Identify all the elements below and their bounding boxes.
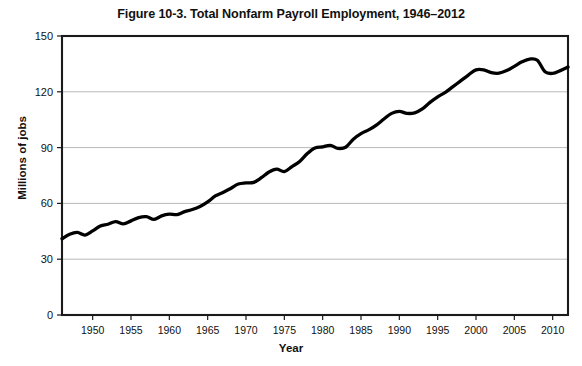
y-tick-label: 0 [47, 309, 53, 321]
y-tick-label: 150 [35, 30, 53, 42]
x-tick-labels-group: 1950195519601965197019751980198519901995… [81, 324, 565, 336]
y-tick-label: 30 [41, 253, 53, 265]
x-tick-label: 1950 [81, 324, 105, 336]
x-tick-label: 1990 [388, 324, 412, 336]
x-tick-label: 2010 [541, 324, 565, 336]
y-tick-label: 60 [41, 197, 53, 209]
y-tick-label: 90 [41, 142, 53, 154]
x-tick-label: 2005 [503, 324, 527, 336]
axis-frame [62, 36, 568, 315]
x-tick-label: 2000 [464, 324, 488, 336]
figure-container: Figure 10-3. Total Nonfarm Payroll Emplo… [0, 0, 582, 366]
data-line-series-0 [62, 59, 568, 239]
x-tick-label: 1960 [158, 324, 182, 336]
x-tick-label: 1985 [349, 324, 373, 336]
x-tick-label: 1970 [234, 324, 258, 336]
x-tick-label: 1975 [273, 324, 297, 336]
x-tick-label: 1980 [311, 324, 335, 336]
x-tick-label: 1965 [196, 324, 220, 336]
x-tick-label: 1995 [426, 324, 450, 336]
y-tick-label: 120 [35, 86, 53, 98]
y-tick-labels-group: 0306090120150 [35, 30, 53, 321]
gridlines-group [62, 92, 568, 259]
plot-area: 0306090120150 19501955196019651970197519… [0, 0, 582, 366]
x-tick-label: 1955 [119, 324, 143, 336]
